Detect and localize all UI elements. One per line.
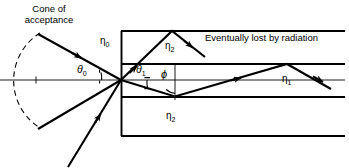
eta1-subscript: 1 xyxy=(288,79,292,86)
theta1-angle-arc xyxy=(147,80,148,88)
upper-acceptance-ray-arrow xyxy=(72,53,82,58)
eta2-bottom-subscript: 2 xyxy=(172,116,176,123)
eta2-top-subscript: 2 xyxy=(171,46,175,53)
theta1-label: θ1 xyxy=(136,63,146,77)
eta2-bottom-label: η2 xyxy=(166,110,175,123)
theta1-subscript: 1 xyxy=(142,70,146,77)
eta0-subscript: 0 xyxy=(106,41,110,48)
steep-rejected-ray xyxy=(68,80,121,167)
phi-angle-arc xyxy=(166,90,175,94)
cone-label-line1: Cone of xyxy=(32,3,65,14)
radiation-loss-label: Eventually lost by radiation xyxy=(205,32,318,43)
radiated-ray-arrow-out xyxy=(184,41,193,48)
lower-acceptance-ray xyxy=(38,80,121,129)
cone-of-acceptance-label: Cone of acceptance xyxy=(8,3,90,25)
steep-rejected-ray-arrow xyxy=(95,114,101,123)
phi-label: ϕ xyxy=(161,68,167,80)
eta0-label: η0 xyxy=(100,35,109,48)
eta2-top-label: η2 xyxy=(165,40,174,53)
theta0-subscript: 0 xyxy=(83,70,87,77)
theta0-angle-arc xyxy=(101,72,102,80)
eta1-label: η1 xyxy=(282,73,291,86)
theta0-label: θ0 xyxy=(77,63,87,77)
diagram-canvas xyxy=(0,0,349,168)
fiber-ray-diagram: Cone of acceptance Eventually lost by ra… xyxy=(0,0,349,168)
cone-label-line2: acceptance xyxy=(25,14,74,25)
